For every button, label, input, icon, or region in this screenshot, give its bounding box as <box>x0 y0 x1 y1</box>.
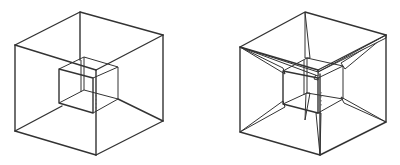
right-figure-tesseract <box>240 12 386 155</box>
outer-cube <box>240 12 386 155</box>
outer-cube <box>15 12 163 155</box>
inner-cube <box>59 57 118 113</box>
left-figure-cube-in-cube <box>15 12 163 155</box>
inner-cube <box>283 58 343 113</box>
diagram-canvas <box>0 0 400 165</box>
